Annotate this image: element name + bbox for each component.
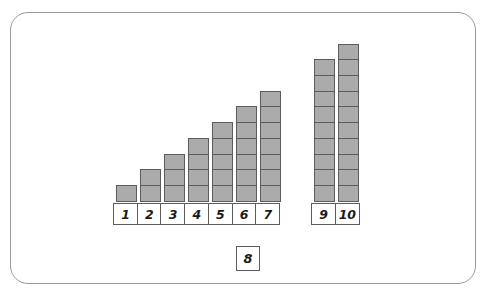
unit-block	[314, 122, 335, 139]
label-row-left: 1234567	[113, 203, 280, 225]
unit-block	[212, 154, 233, 171]
number-tile-1[interactable]: 1	[113, 203, 138, 225]
unit-block	[338, 154, 359, 171]
unit-block	[236, 122, 257, 139]
unit-block	[314, 59, 335, 76]
unit-block	[338, 138, 359, 155]
unit-block	[338, 169, 359, 186]
unit-block	[260, 122, 281, 139]
unit-block	[338, 59, 359, 76]
unit-block	[236, 185, 257, 202]
block-column-1[interactable]	[116, 186, 137, 202]
unit-block	[338, 91, 359, 108]
number-tile-10[interactable]: 10	[335, 203, 360, 225]
number-tile-9[interactable]: 9	[311, 203, 336, 225]
unit-block	[188, 154, 209, 171]
unit-block	[140, 185, 161, 202]
unit-block	[140, 169, 161, 186]
number-tile-4[interactable]: 4	[184, 203, 209, 225]
block-column-10[interactable]	[338, 45, 359, 202]
block-column-4[interactable]	[188, 139, 209, 202]
block-column-7[interactable]	[260, 92, 281, 202]
label-row-right: 910	[311, 203, 360, 225]
unit-block	[338, 106, 359, 123]
unit-block	[212, 169, 233, 186]
unit-block	[314, 91, 335, 108]
unit-block	[188, 169, 209, 186]
number-tile-3[interactable]: 3	[160, 203, 185, 225]
unit-block	[314, 75, 335, 92]
unit-block	[314, 138, 335, 155]
unit-block	[314, 154, 335, 171]
unit-block	[212, 138, 233, 155]
unit-block	[188, 185, 209, 202]
unit-block	[338, 122, 359, 139]
block-column-6[interactable]	[236, 108, 257, 202]
block-column-5[interactable]	[212, 123, 233, 202]
unit-block	[314, 185, 335, 202]
unit-block	[338, 185, 359, 202]
unit-block	[164, 185, 185, 202]
number-tile-2[interactable]: 2	[137, 203, 162, 225]
unit-block	[338, 75, 359, 92]
activity-canvas: 1234567910 8	[0, 0, 488, 296]
unit-block	[260, 91, 281, 108]
unit-block	[260, 169, 281, 186]
number-tile-7[interactable]: 7	[255, 203, 280, 225]
unit-block	[164, 169, 185, 186]
block-chart: 1234567910 8	[0, 0, 488, 296]
unit-block	[260, 154, 281, 171]
unit-block	[260, 185, 281, 202]
unit-block	[236, 154, 257, 171]
unit-block	[338, 44, 359, 61]
unit-block	[116, 185, 137, 202]
unit-block	[212, 185, 233, 202]
unit-block	[236, 138, 257, 155]
unit-block	[260, 138, 281, 155]
number-tile-5[interactable]: 5	[208, 203, 233, 225]
block-column-3[interactable]	[164, 155, 185, 202]
unit-block	[314, 106, 335, 123]
detached-number-tile-8[interactable]: 8	[236, 246, 260, 271]
block-column-2[interactable]	[140, 171, 161, 202]
unit-block	[164, 154, 185, 171]
unit-block	[188, 138, 209, 155]
unit-block	[260, 106, 281, 123]
number-tile-6[interactable]: 6	[232, 203, 257, 225]
unit-block	[212, 122, 233, 139]
block-column-9[interactable]	[314, 61, 335, 202]
unit-block	[236, 106, 257, 123]
unit-block	[314, 169, 335, 186]
unit-block	[236, 169, 257, 186]
